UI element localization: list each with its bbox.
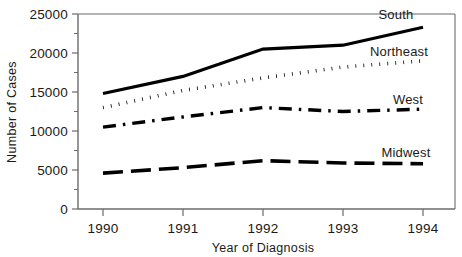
y-axis-tick-labels: 25000 20000 15000 10000 5000 0 bbox=[29, 7, 68, 217]
series-label-south: South bbox=[379, 7, 414, 22]
y-axis-title: Number of Cases bbox=[5, 61, 19, 163]
y-tick-label: 15000 bbox=[29, 85, 68, 100]
series-label-west: West bbox=[393, 92, 423, 107]
series-label-midwest: Midwest bbox=[381, 145, 430, 160]
x-tick-label: 1992 bbox=[248, 221, 279, 236]
x-tick-label: 1994 bbox=[408, 221, 439, 236]
x-tick-label: 1993 bbox=[328, 221, 359, 236]
chart-figure: 25000 20000 15000 10000 5000 0 1990 1991… bbox=[0, 0, 462, 257]
series-line-midwest bbox=[103, 161, 423, 173]
y-tick-label: 25000 bbox=[29, 7, 68, 22]
x-axis-title: Year of Diagnosis bbox=[212, 241, 315, 255]
y-tick-label: 0 bbox=[60, 202, 68, 217]
x-axis-ticks bbox=[103, 209, 423, 216]
series-label-northeast: Northeast bbox=[370, 44, 428, 59]
series-line-south bbox=[103, 27, 423, 93]
y-tick-label: 5000 bbox=[37, 163, 68, 178]
x-tick-label: 1991 bbox=[168, 221, 199, 236]
y-tick-label: 10000 bbox=[29, 124, 68, 139]
y-tick-label: 20000 bbox=[29, 46, 68, 61]
x-tick-label: 1990 bbox=[88, 221, 119, 236]
series-line-west bbox=[103, 108, 423, 128]
series-labels: South Northeast West Midwest bbox=[370, 7, 431, 160]
x-axis-tick-labels: 1990 1991 1992 1993 1994 bbox=[88, 221, 439, 236]
line-chart: 25000 20000 15000 10000 5000 0 1990 1991… bbox=[0, 0, 462, 257]
